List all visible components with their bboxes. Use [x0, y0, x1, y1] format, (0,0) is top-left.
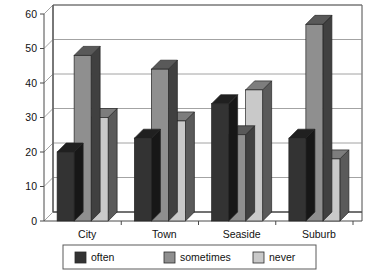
x-axis-category-label: Seaside	[223, 228, 261, 240]
x-axis-category-label: Suburb	[302, 228, 336, 240]
bar-side-face	[246, 126, 255, 221]
bar-side-face	[263, 81, 272, 221]
bar	[289, 129, 315, 221]
bar-side-face	[74, 143, 83, 221]
bar-front-face	[57, 152, 74, 221]
bar-front-face	[134, 138, 151, 221]
y-axis-tick-label: 60	[25, 8, 37, 20]
x-axis-category-label: City	[78, 228, 97, 240]
legend-swatch	[164, 252, 175, 263]
y-axis-tick-label: 50	[25, 42, 37, 54]
chart-legend: oftensometimesnever	[63, 245, 316, 269]
y-axis-tick-label: 10	[25, 180, 37, 192]
bar-side-face	[151, 129, 160, 221]
legend-label: often	[91, 251, 115, 263]
legend-swatch	[75, 252, 86, 263]
bar	[212, 95, 238, 221]
bar-side-face	[229, 95, 238, 221]
bar-side-face	[108, 109, 117, 222]
legend-label: sometimes	[180, 251, 231, 263]
bar-chart: 0102030405060 CityTownSeasideSuburb ofte…	[0, 0, 378, 279]
y-axis-tick-label: 0	[31, 215, 37, 227]
legend-item[interactable]: never	[253, 251, 296, 263]
bar-side-face	[323, 15, 332, 221]
chart-canvas: 0102030405060 CityTownSeasideSuburb ofte…	[0, 0, 378, 279]
bar	[134, 129, 160, 221]
legend-swatch	[253, 252, 264, 263]
bar	[57, 143, 83, 221]
y-axis-tick-label: 30	[25, 111, 37, 123]
legend-item[interactable]: sometimes	[164, 251, 231, 263]
bar-side-face	[168, 60, 177, 221]
bar-side-face	[340, 150, 349, 221]
x-axis-category-label: Town	[152, 228, 177, 240]
bar-side-face	[185, 112, 194, 221]
y-axis-tick-label: 20	[25, 146, 37, 158]
bar-side-face	[91, 46, 100, 221]
bar-side-face	[306, 129, 315, 221]
y-axis-tick-label: 40	[25, 77, 37, 89]
bar-front-face	[212, 104, 229, 221]
bar-front-face	[289, 138, 306, 221]
legend-label: never	[269, 251, 296, 263]
legend-item[interactable]: often	[75, 251, 115, 263]
